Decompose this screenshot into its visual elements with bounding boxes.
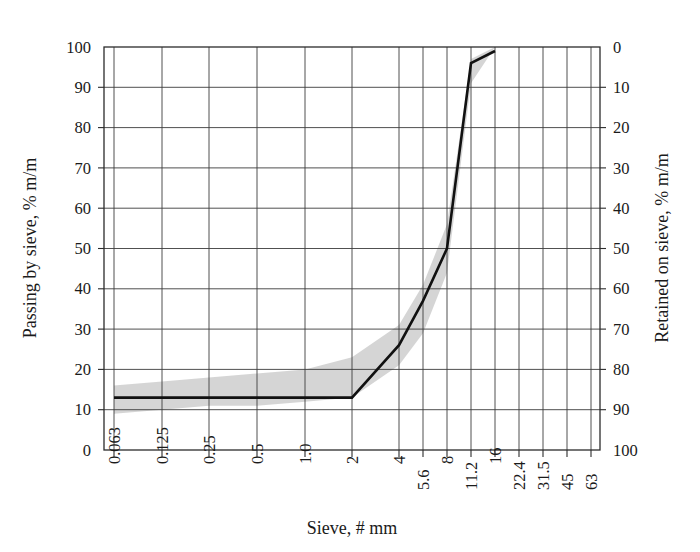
- x-axis-tick-label: 45: [558, 474, 577, 491]
- x-axis-tick-label: 31.5: [534, 461, 553, 490]
- y2-axis-tick-label: 80: [613, 360, 630, 379]
- y-axis-tick-label: 0: [83, 441, 91, 460]
- y2-axis-tick-label: 60: [613, 279, 630, 298]
- y2-axis-tick-label: 20: [613, 118, 630, 137]
- x-axis-tick-label: 0.125: [153, 427, 172, 464]
- y-axis-tick-label: 70: [75, 159, 92, 178]
- x-axis-title: Sieve, # mm: [307, 518, 398, 538]
- y2-axis-tick-label: 0: [613, 38, 621, 57]
- y2-axis-tick-label: 70: [613, 320, 630, 339]
- y-axis-tick-label: 10: [75, 400, 92, 419]
- x-axis-tick-label: 11.2: [462, 462, 481, 490]
- y2-axis-tick-label: 10: [613, 78, 630, 97]
- x-axis-tick-label: 4: [390, 456, 409, 464]
- y2-axis-tick-label: 50: [613, 239, 630, 258]
- y2-axis-title: Retained on sieve, % m/m: [652, 153, 672, 342]
- x-axis-tick-label: 0.25: [200, 435, 219, 464]
- y2-axis-tick-label: 90: [613, 400, 630, 419]
- x-axis-tick-label: 8: [438, 456, 457, 464]
- y2-axis-tick-label: 100: [613, 441, 638, 460]
- y2-axis-tick-label: 40: [613, 199, 630, 218]
- y-axis-title: Passing by sieve, % m/m: [20, 158, 40, 339]
- y-axis-tick-label: 50: [75, 239, 92, 258]
- x-axis-tick-label: 2: [343, 456, 362, 464]
- chart-background: [0, 0, 700, 552]
- y-axis-tick-label: 30: [75, 320, 92, 339]
- x-axis-tick-label: 0.5: [248, 443, 267, 464]
- x-axis-tick-label: 22.4: [510, 461, 529, 490]
- y-axis-tick-label: 90: [75, 78, 92, 97]
- x-axis-tick-label: 16: [486, 448, 505, 465]
- y-axis-tick-label: 80: [75, 118, 92, 137]
- y-axis-tick-label: 60: [75, 199, 92, 218]
- chart-canvas: 0.0630.1250.250.51.0245.6811.21622.431.5…: [0, 0, 700, 552]
- x-axis-tick-label: 0.063: [105, 427, 124, 464]
- x-axis-tick-label: 1.0: [296, 443, 315, 464]
- grading-curve-figure: 0.0630.1250.250.51.0245.6811.21622.431.5…: [0, 0, 700, 552]
- y-axis-tick-label: 20: [75, 360, 92, 379]
- y2-axis-tick-label: 30: [613, 159, 630, 178]
- x-axis-tick-label: 5.6: [414, 469, 433, 490]
- x-axis-tick-label: 63: [582, 474, 601, 491]
- y-axis-tick-label: 40: [75, 279, 92, 298]
- y-axis-tick-label: 100: [66, 38, 91, 57]
